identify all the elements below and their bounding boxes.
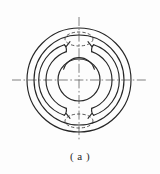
drawing-background (0, 0, 160, 174)
figure-container: ( a ) (0, 0, 160, 174)
engineering-drawing (0, 0, 160, 174)
figure-caption: ( a ) (0, 150, 160, 162)
